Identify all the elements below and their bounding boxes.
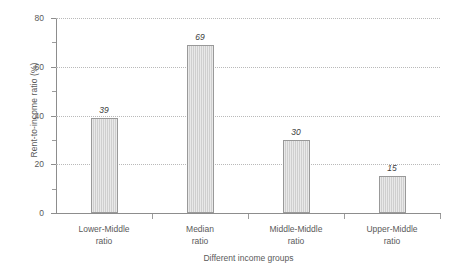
bar[interactable]: [379, 176, 406, 213]
category-label-line: ratio: [242, 236, 350, 248]
bar-value-label: 15: [367, 164, 417, 173]
y-tick-label-60: 60: [10, 63, 44, 72]
category-label-line: ratio: [146, 236, 254, 248]
category-label: Middle-Middleratio: [242, 224, 350, 247]
category-label-line: ratio: [50, 236, 158, 248]
bar-value-label: 39: [79, 106, 129, 115]
category-label-line: Median: [146, 224, 254, 236]
category-label: Medianratio: [146, 224, 254, 247]
category-label: Upper-Middleratio: [338, 224, 446, 247]
bar[interactable]: [91, 118, 118, 213]
category-label-line: Middle-Middle: [242, 224, 350, 236]
y-tick-label-20: 20: [10, 160, 44, 169]
category-label-line: Lower-Middle: [50, 224, 158, 236]
bar-value-label: 69: [175, 33, 225, 42]
x-tick: [344, 214, 345, 219]
x-tick: [248, 214, 249, 219]
plot-area: 39693015: [56, 18, 440, 213]
y-tick-label-40: 40: [10, 112, 44, 121]
category-label-line: Upper-Middle: [338, 224, 446, 236]
bar[interactable]: [187, 45, 214, 213]
y-tick-label-0: 0: [10, 209, 44, 218]
y-tick-label-80: 80: [10, 14, 44, 23]
bar-chart: Rent-to-income ratio (%) 020406080 39693…: [0, 0, 449, 278]
category-label: Lower-Middleratio: [50, 224, 158, 247]
x-tick: [152, 214, 153, 219]
gridline-60: [56, 67, 440, 68]
bar[interactable]: [283, 140, 310, 213]
category-label-line: ratio: [338, 236, 446, 248]
x-tick: [440, 214, 441, 219]
gridline-80: [56, 18, 440, 19]
gridline-40: [56, 116, 440, 117]
y-axis-title: Rent-to-income ratio (%): [29, 25, 39, 195]
bar-value-label: 30: [271, 128, 321, 137]
x-axis-title: Different income groups: [56, 253, 441, 263]
